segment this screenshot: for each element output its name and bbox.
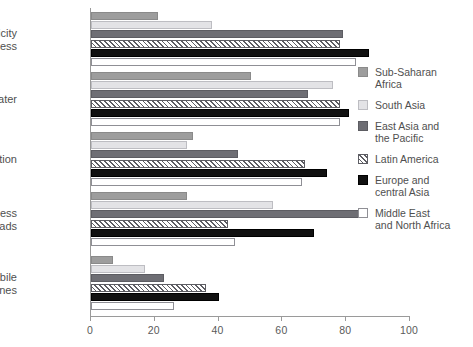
bar [91, 21, 212, 29]
bar [91, 40, 340, 48]
bar [91, 150, 238, 158]
bar [91, 302, 174, 310]
category-label: Rural access to roads [0, 207, 17, 233]
bar [91, 118, 340, 126]
bar [91, 229, 314, 237]
legend-item[interactable]: East Asia and the Pacific [358, 120, 470, 144]
legend-label: East Asia and the Pacific [375, 120, 439, 144]
x-tick-mark [90, 316, 91, 321]
category-label: Electricity network access [0, 27, 17, 53]
legend-swatch-latin-america [358, 154, 368, 164]
bar [91, 81, 333, 89]
bar [91, 72, 251, 80]
x-tick-mark [154, 316, 155, 321]
x-axis-line [90, 316, 410, 317]
bar [91, 201, 273, 209]
legend-swatch-sub-saharan-africa [358, 67, 368, 77]
x-tick-mark [281, 316, 282, 321]
bar [91, 220, 228, 228]
x-tick-label: 80 [339, 324, 351, 336]
bar [91, 49, 369, 57]
category-label: Potable water [0, 93, 17, 106]
x-tick-label: 100 [400, 324, 418, 336]
bar [91, 210, 365, 218]
category-label: Sanitation [0, 153, 17, 166]
legend-item[interactable]: Europe and central Asia [358, 174, 470, 198]
bar [91, 192, 187, 200]
bar [91, 30, 343, 38]
bar [91, 265, 145, 273]
bar [91, 293, 219, 301]
x-tick-mark [409, 316, 410, 321]
legend-label: South Asia [375, 99, 425, 111]
category-label: Fixed and mobile access to phones [0, 271, 17, 297]
bar-chart: 020406080100 Electricity network accessP… [0, 0, 473, 347]
bar [91, 141, 187, 149]
bar [91, 132, 193, 140]
x-tick-label: 20 [148, 324, 160, 336]
chart-legend: Sub-Saharan AfricaSouth AsiaEast Asia an… [358, 66, 470, 240]
legend-label: Latin America [375, 153, 439, 165]
bar [91, 90, 308, 98]
x-tick-label: 60 [275, 324, 287, 336]
legend-label: Sub-Saharan Africa [375, 66, 437, 90]
legend-label: Europe and central Asia [375, 174, 429, 198]
legend-swatch-europe-central-asia [358, 175, 368, 185]
bar [91, 160, 305, 168]
bar [91, 238, 235, 246]
bar [91, 12, 158, 20]
bar [91, 178, 302, 186]
bar [91, 256, 113, 264]
bar [91, 284, 206, 292]
x-tick-mark [218, 316, 219, 321]
bar [91, 109, 349, 117]
bar [91, 169, 327, 177]
legend-item[interactable]: Middle East and North Africa [358, 207, 470, 231]
bar [91, 58, 356, 66]
legend-item[interactable]: Latin America [358, 153, 470, 165]
bar [91, 100, 340, 108]
legend-swatch-middle-east-north-africa [358, 208, 368, 218]
legend-item[interactable]: South Asia [358, 99, 470, 111]
x-tick-label: 40 [212, 324, 224, 336]
legend-label: Middle East and North Africa [375, 207, 450, 231]
legend-item[interactable]: Sub-Saharan Africa [358, 66, 470, 90]
legend-swatch-south-asia [358, 100, 368, 110]
legend-swatch-east-asia-pacific [358, 121, 368, 131]
x-tick-mark [345, 316, 346, 321]
bar [91, 274, 164, 282]
x-tick-label: 0 [87, 324, 93, 336]
